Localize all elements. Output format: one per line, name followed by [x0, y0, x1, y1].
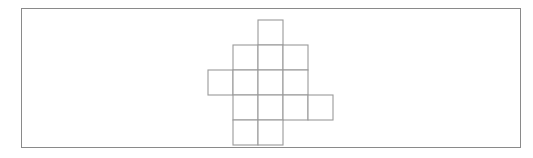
screenshot-canvas — [0, 0, 533, 158]
figure-frame-border — [21, 8, 521, 148]
